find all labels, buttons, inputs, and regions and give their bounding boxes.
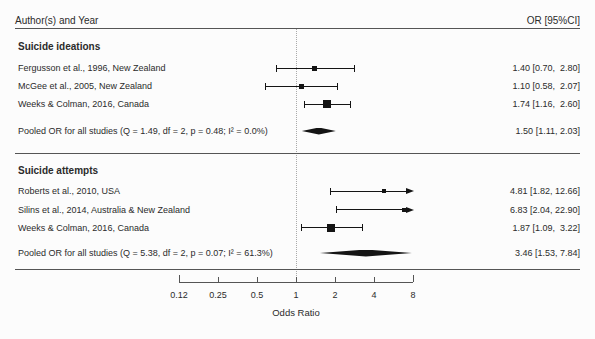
study-label: Silins et al., 2014, Australia & New Zea…: [18, 205, 190, 215]
study-or-value: 1.10 [0.58, 2.07]: [460, 81, 580, 91]
study-label: McGee et al., 2005, New Zealand: [18, 81, 152, 91]
study-or-value: 4.81 [1.82, 12.66]: [460, 186, 580, 196]
plot-area: Suicide ideationsFergusson et al., 1996,…: [0, 0, 595, 339]
ci-arrow: [406, 188, 414, 194]
study-or-value: 1.40 [0.70, 2.80]: [460, 63, 580, 73]
axis-tick: [218, 277, 219, 282]
point-estimate-marker: [402, 208, 406, 212]
ci-lower-tick: [301, 224, 302, 231]
pooled-diamond: [320, 250, 412, 257]
study-or-value: 1.87 [1.09, 3.22]: [460, 223, 580, 233]
ci-lower-tick: [304, 101, 305, 108]
study-label: Weeks & Colman, 2016, Canada: [18, 223, 149, 233]
study-label: Weeks & Colman, 2016, Canada: [18, 99, 149, 109]
study-or-value: 1.74 [1.16, 2.60]: [460, 99, 580, 109]
axis-tick: [179, 275, 180, 282]
study-label: Fergusson et al., 1996, New Zealand: [18, 63, 166, 73]
axis-tick-label: 0.5: [251, 290, 264, 300]
ci-arrow: [406, 207, 414, 213]
axis-tick-label: 8: [410, 290, 415, 300]
section-divider: [15, 153, 580, 154]
ci-upper-tick: [337, 83, 338, 90]
ci-lower-tick: [265, 83, 266, 90]
forest-plot-figure: Author(s) and Year OR [95%CI] Suicide id…: [0, 0, 595, 339]
pooled-label: Pooled OR for all studies (Q = 5.38, df …: [18, 248, 273, 258]
pooled-or-value: 3.46 [1.53, 7.84]: [460, 248, 580, 258]
ci-upper-tick: [362, 224, 363, 231]
ci-line: [336, 209, 407, 210]
ci-lower-tick: [330, 188, 331, 195]
pooled-or-value: 1.50 [1.11, 2.03]: [460, 126, 580, 136]
axis-tick-label: 0.25: [209, 290, 227, 300]
point-estimate-marker: [299, 84, 304, 89]
ci-lower-tick: [336, 206, 337, 213]
pooled-diamond: [302, 128, 336, 135]
point-estimate-marker: [382, 189, 386, 193]
point-estimate-marker: [323, 100, 331, 108]
point-estimate-marker: [312, 66, 317, 71]
ci-upper-tick: [354, 65, 355, 72]
axis-tick: [335, 277, 336, 282]
point-estimate-marker: [327, 224, 335, 232]
axis-tick-label: 0.12: [170, 290, 188, 300]
section-title: Suicide attempts: [18, 165, 98, 176]
axis-tick: [413, 275, 414, 282]
axis-tick-label: 1: [293, 290, 298, 300]
axis-tick-label: 2: [332, 290, 337, 300]
axis-tick-label: 4: [371, 290, 376, 300]
axis-tick: [374, 277, 375, 282]
axis-tick: [296, 277, 297, 282]
study-or-value: 6.83 [2.04, 22.90]: [460, 205, 580, 215]
ci-upper-tick: [350, 101, 351, 108]
section-divider: [15, 269, 580, 270]
ci-line: [330, 191, 407, 192]
ci-lower-tick: [276, 65, 277, 72]
pooled-label: Pooled OR for all studies (Q = 1.49, df …: [18, 126, 268, 136]
or-axis-line: [179, 282, 413, 283]
axis-title: Odds Ratio: [272, 307, 320, 318]
study-label: Roberts et al., 2010, USA: [18, 186, 120, 196]
axis-tick: [257, 277, 258, 282]
section-title: Suicide ideations: [18, 41, 100, 52]
